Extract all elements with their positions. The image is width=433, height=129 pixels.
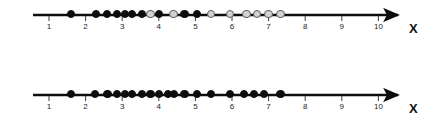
data-point-filled <box>180 90 188 98</box>
tick-label-6: 6 <box>224 102 240 111</box>
tick-label-9: 9 <box>334 102 350 111</box>
data-point-filled <box>103 90 111 98</box>
data-point-filled <box>92 10 100 18</box>
tick-label-10: 10 <box>370 22 386 31</box>
data-point-filled <box>103 10 111 18</box>
number-lines-svg <box>0 0 433 129</box>
tick-label-8: 8 <box>297 102 313 111</box>
data-point-filled <box>180 10 188 18</box>
tick-label-6: 6 <box>224 22 240 31</box>
data-point-filled <box>113 10 121 18</box>
data-point-filled <box>226 90 234 98</box>
data-point-filled <box>155 10 163 18</box>
data-point-filled <box>207 90 215 98</box>
data-point-filled <box>91 90 99 98</box>
tick-label-10: 10 <box>370 102 386 111</box>
tick-label-9: 9 <box>334 22 350 31</box>
data-point-filled <box>138 90 146 98</box>
data-point-filled <box>193 10 201 18</box>
tick-label-5: 5 <box>187 22 203 31</box>
data-point-open <box>226 10 234 18</box>
data-point-open <box>207 10 215 18</box>
data-point-filled <box>250 90 258 98</box>
data-point-filled <box>260 90 268 98</box>
tick-label-1: 1 <box>41 102 57 111</box>
tick-label-2: 2 <box>78 102 94 111</box>
data-point-filled <box>128 90 136 98</box>
data-point-filled <box>276 90 284 98</box>
data-point-filled <box>113 90 121 98</box>
tick-label-4: 4 <box>151 102 167 111</box>
tick-label-4: 4 <box>151 22 167 31</box>
tick-label-8: 8 <box>297 22 313 31</box>
tick-label-2: 2 <box>78 22 94 31</box>
data-point-filled <box>67 10 75 18</box>
tick-label-3: 3 <box>114 22 130 31</box>
tick-label-5: 5 <box>187 102 203 111</box>
tick-label-7: 7 <box>261 102 277 111</box>
dot-plot-figure: 12345678910 12345678910 X X <box>0 0 433 129</box>
data-point-open <box>242 10 250 18</box>
tick-label-3: 3 <box>114 102 130 111</box>
data-point-open <box>264 10 272 18</box>
data-point-filled <box>128 10 136 18</box>
x-axis-label-top: X <box>409 22 418 35</box>
data-point-filled <box>240 90 248 98</box>
data-point-filled <box>138 10 146 18</box>
data-point-filled <box>193 90 201 98</box>
tick-label-1: 1 <box>41 22 57 31</box>
data-point-open <box>146 10 154 18</box>
data-point-filled <box>146 90 154 98</box>
tick-label-7: 7 <box>261 22 277 31</box>
data-point-filled <box>67 90 75 98</box>
data-point-filled <box>170 90 178 98</box>
data-point-open <box>276 10 284 18</box>
data-point-open <box>253 10 261 18</box>
x-axis-label-bottom: X <box>409 102 418 115</box>
data-point-filled <box>155 90 163 98</box>
data-point-open <box>169 10 177 18</box>
